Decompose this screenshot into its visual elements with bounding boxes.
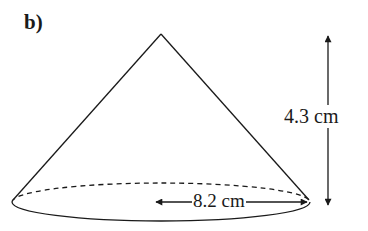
cone-base-front <box>12 202 310 221</box>
cone-base-back-dashed <box>12 183 310 202</box>
part-label: b) <box>24 10 43 35</box>
radius-label: 8.2 cm <box>192 190 246 212</box>
cone-left-slant <box>13 34 161 200</box>
height-label: 4.3 cm <box>283 105 339 128</box>
